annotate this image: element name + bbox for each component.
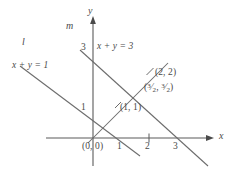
line-l-label: l xyxy=(22,37,25,47)
denominator-x: 2 xyxy=(153,86,157,94)
fraction-three-halves-y: 3⁄2 xyxy=(161,83,170,93)
point-label-three-halves: (3⁄2, 3⁄2) xyxy=(144,83,173,93)
equation-x-plus-y-equals-1: x + y = 1 xyxy=(12,61,48,71)
numerator-x: 3 xyxy=(147,82,151,90)
point-label-1-1: (1, 1) xyxy=(120,103,141,113)
axes-group xyxy=(46,16,214,166)
origin-point-label: (0, 0) xyxy=(82,142,103,152)
fraction-three-halves-x: 3⁄2 xyxy=(147,83,156,93)
y-axis-label: y xyxy=(88,6,93,16)
denominator-y: 2 xyxy=(166,86,170,94)
point-marker-2-2 xyxy=(147,68,154,75)
y-tick-label-3: 3 xyxy=(81,43,86,53)
figure-container: y x m l x + y = 1 x + y = 3 3 1 (0, 0) 1… xyxy=(0,0,242,172)
y-axis-arrowhead xyxy=(90,16,96,24)
paren-close: ) xyxy=(170,82,173,92)
x-tick-label-2: 2 xyxy=(145,142,150,152)
x-axis-arrowhead xyxy=(206,135,214,141)
x-tick-label-3: 3 xyxy=(173,142,178,152)
y-tick-label-1: 1 xyxy=(81,103,86,113)
x-tick-label-1: 1 xyxy=(117,142,122,152)
x-axis-label: x xyxy=(219,131,224,141)
line-m-label: m xyxy=(66,21,73,31)
point-label-2-2: (2, 2) xyxy=(155,68,176,78)
equation-x-plus-y-equals-3: x + y = 3 xyxy=(97,42,133,52)
numerator-y: 3 xyxy=(161,82,165,90)
